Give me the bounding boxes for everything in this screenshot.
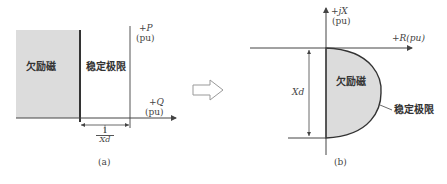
- underexcitation-label: 欠励磁: [26, 62, 56, 72]
- r-axis-label: +R(pu): [392, 33, 425, 43]
- stability-limit-label: 稳定极限: [86, 62, 126, 72]
- q-axis-unit: (pu): [145, 107, 164, 117]
- caption-a: (a): [98, 157, 110, 167]
- p-axis-label: +P: [139, 23, 153, 33]
- p-axis-unit: (pu): [136, 33, 155, 43]
- inverse-xd-label: 1 Xd: [96, 127, 114, 144]
- transform-arrow-icon: [193, 80, 223, 100]
- underexcitation-label-b: 欠励磁: [336, 77, 366, 87]
- caption-b: (b): [334, 157, 347, 167]
- stability-limit-label-b: 稳定极限: [394, 105, 434, 115]
- stability-limit-leader: [380, 105, 392, 110]
- q-axis-label: +Q: [149, 97, 164, 107]
- diagram-canvas: [0, 0, 447, 184]
- underexcitation-region: [326, 48, 381, 138]
- xd-label: Xd: [292, 87, 304, 97]
- fraction-denominator: Xd: [96, 136, 114, 144]
- panel-b: [250, 8, 412, 155]
- underexcitation-region: [16, 30, 80, 118]
- jx-axis-unit: (pu): [332, 16, 351, 26]
- jx-axis-label: +jX: [331, 6, 348, 16]
